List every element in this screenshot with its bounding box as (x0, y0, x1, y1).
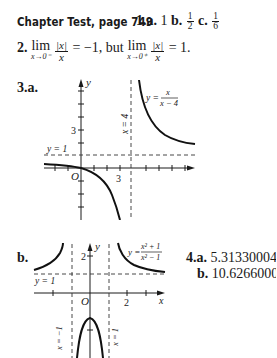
curve-left-branch (44, 164, 120, 220)
vertical-asymptote-right-label: x = 1 (110, 328, 120, 347)
x-tick-label: 3 (116, 173, 121, 184)
graph-3a: y O 3 3 y = 1 x = 4 y = x x − 4 (0, 70, 200, 220)
y-axis-arrow-icon (88, 243, 93, 251)
fraction-denominator: x (59, 52, 64, 63)
abs-x-over-x: |x| x (55, 40, 68, 63)
abs-x-over-x: |x| x (151, 40, 164, 63)
answer-1a-label: 1.a. (136, 13, 157, 28)
answer-1c-fraction: 1 6 (212, 12, 219, 31)
answer-2: 2. lim x→0⁻ |x| x = −1, but lim x→0⁺ |x|… (17, 40, 191, 63)
x-axis-label: x (158, 295, 164, 306)
y-tick-label: 3 (71, 125, 76, 136)
fraction-denominator: 6 (213, 22, 218, 31)
vertical-asymptote-label: x = 4 (120, 114, 130, 135)
horizontal-asymptote-label: y = 1 (34, 276, 55, 286)
lim-subscript: x→0⁺ (127, 52, 147, 61)
horizontal-asymptote-label: y = 1 (46, 144, 67, 154)
y-axis-label: y (85, 76, 91, 88)
vertical-asymptote-left-label: x = −1 (54, 326, 64, 351)
function-label-den: x − 4 (159, 98, 179, 108)
answer-4b-value: 10.62660008 (212, 266, 276, 281)
origin-label: O (71, 170, 79, 182)
curve-left-branch (34, 243, 63, 270)
y-axis-arrow-icon (79, 79, 84, 87)
answer-4a-value: 5.31330004 (211, 250, 277, 265)
origin-label: O (81, 295, 89, 307)
y-tick-label: 2 (81, 251, 86, 262)
answer-1b-fraction: 1 2 (187, 12, 194, 31)
lim-subscript: x→0⁻ (31, 52, 51, 61)
answer-1c-label: c. (198, 13, 208, 28)
answer-4b: b. 10.62660008 (197, 266, 276, 282)
section-heading: Chapter Test, page 749 (17, 14, 153, 29)
fraction-denominator: 2 (188, 22, 193, 31)
function-label-num: x (165, 87, 170, 97)
function-label-num: x² + 1 (140, 242, 160, 251)
answer-4a: 4.a. 5.31330004 (186, 250, 276, 266)
graph-3b: y x O 2 2 y = 1 x = −1 x = 1 y = x² + 1 … (0, 230, 170, 358)
x-tick-label: 2 (124, 297, 129, 308)
answer-4b-label: b. (197, 266, 208, 281)
fraction-denominator: x (155, 52, 160, 63)
answer-2-label: 2. (17, 40, 28, 55)
limit-left: lim x→0⁻ (31, 40, 51, 61)
answer-4a-label: 4.a. (186, 250, 207, 265)
limit-right: lim x→0⁺ (127, 40, 147, 61)
lim-word: lim (31, 40, 50, 52)
answer-1b-label: b. (171, 13, 182, 28)
answer-1a-value: 1 (161, 13, 168, 28)
y-axis-label: y (94, 240, 100, 252)
answer-1: 1.a. 1 b. 1 2 c. 1 6 (136, 12, 220, 31)
function-label-den: x² − 1 (140, 253, 160, 262)
limit-result-1: = −1, but (73, 40, 124, 55)
lim-word: lim (128, 40, 147, 52)
function-label-y: y = (145, 93, 159, 103)
function-label-y: y = (127, 247, 140, 257)
x-axis-arrow-icon (187, 166, 195, 171)
limit-result-2: = 1. (169, 40, 191, 55)
